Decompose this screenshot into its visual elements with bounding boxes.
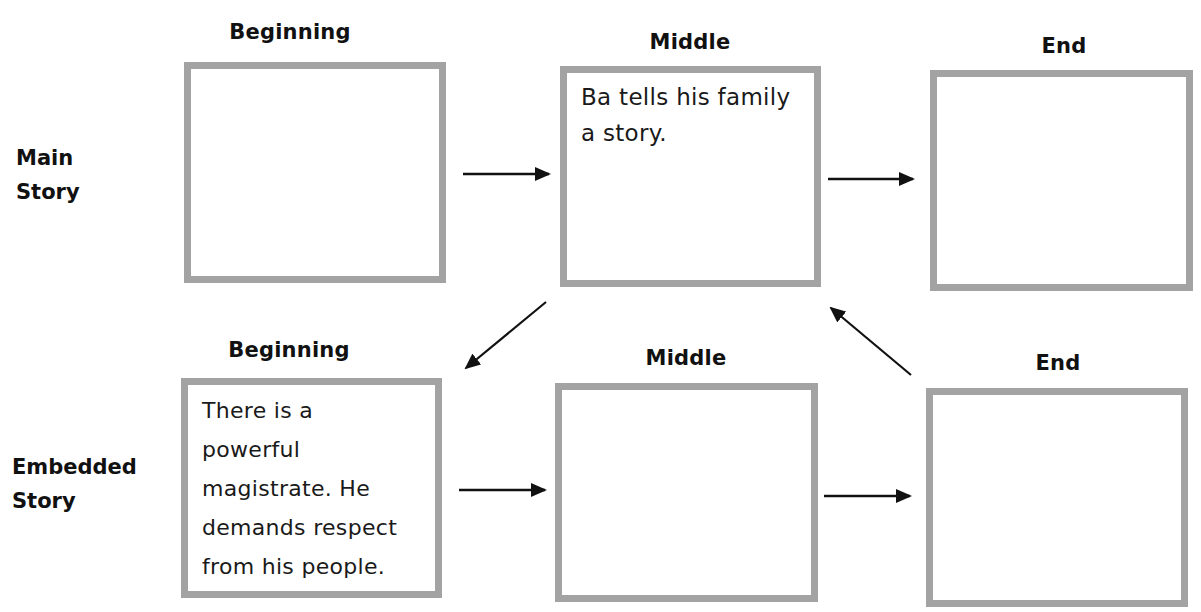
arrow-up-left-icon xyxy=(831,308,911,375)
arrows-layer xyxy=(0,0,1201,612)
arrow-down-left-icon xyxy=(466,302,546,368)
